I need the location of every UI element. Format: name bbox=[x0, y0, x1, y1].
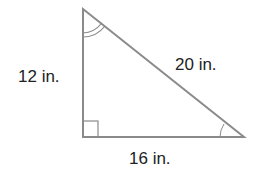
top-angle-arc-inner bbox=[83, 24, 101, 33]
top-angle-arc-outer bbox=[83, 26, 105, 37]
hypotenuse-label: 20 in. bbox=[175, 56, 217, 73]
right-angle-marker bbox=[83, 121, 98, 137]
left-side-label: 12 in. bbox=[18, 68, 60, 85]
bottom-side-label: 16 in. bbox=[129, 150, 171, 167]
triangle bbox=[83, 9, 244, 137]
bottom-right-angle-arc bbox=[220, 124, 224, 137]
